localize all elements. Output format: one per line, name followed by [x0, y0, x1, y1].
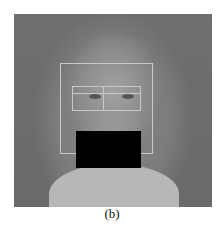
figure-caption: (b) — [0, 206, 224, 222]
mouth-occlusion-bar — [76, 131, 141, 168]
sweater-region — [49, 164, 179, 207]
face-photo — [14, 14, 212, 207]
eyebrow-line — [72, 86, 141, 94]
